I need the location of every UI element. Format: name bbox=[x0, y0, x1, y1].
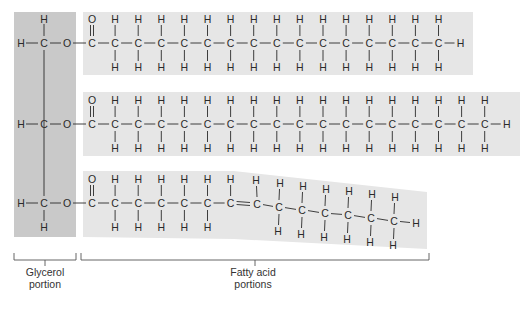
chain3-h-bottom-5: H bbox=[204, 221, 212, 233]
glycerol-label-line2: portion bbox=[10, 278, 80, 290]
chain2-h-top-7: H bbox=[250, 94, 258, 106]
chain3-tail-h-top-5: H bbox=[391, 191, 399, 203]
chain1-h-bottom-4: H bbox=[181, 61, 189, 73]
chain1-h-top-5: H bbox=[204, 13, 212, 25]
chain1-carbon-4: C bbox=[181, 37, 189, 49]
ester-oxygen-2: O bbox=[63, 197, 71, 209]
glycerol-bracket bbox=[14, 253, 76, 260]
chain1-carbon-9: C bbox=[296, 37, 304, 49]
glycerol-label-line1: Glycerol bbox=[10, 266, 80, 278]
chain3-alkene-carbon: C bbox=[253, 198, 261, 210]
chain1-h-bottom-5: H bbox=[204, 61, 212, 73]
chain1-h-top-9: H bbox=[296, 13, 304, 25]
chain2-h-top-17: H bbox=[481, 94, 489, 106]
chain1-carbon-15: C bbox=[435, 37, 443, 49]
chain3-h-bottom-1: H bbox=[111, 221, 119, 233]
chain1-carbon-1: C bbox=[111, 37, 119, 49]
bond bbox=[394, 203, 395, 214]
chain2-carbon-2: C bbox=[134, 118, 142, 130]
chain2-h-top-5: H bbox=[204, 94, 212, 106]
chain3-carbon-2: C bbox=[134, 197, 142, 209]
chain2-h-top-14: H bbox=[412, 94, 420, 106]
chain1-h-bottom-3: H bbox=[158, 61, 166, 73]
chain2-h-bottom-8: H bbox=[273, 142, 281, 154]
chain2-carbon-17: C bbox=[481, 118, 489, 130]
chain2-carbon-7: C bbox=[250, 118, 258, 130]
chain2-h-bottom-10: H bbox=[319, 142, 327, 154]
chain1-carbon-3: C bbox=[158, 37, 166, 49]
bond bbox=[325, 195, 326, 206]
chain1-terminal-h: H bbox=[457, 37, 465, 49]
bond bbox=[257, 186, 258, 197]
chain1-h-bottom-10: H bbox=[319, 61, 327, 73]
chain3-tail-carbon-4: C bbox=[367, 212, 375, 224]
chain1-h-bottom-2: H bbox=[134, 61, 142, 73]
chain3-tail-h-bottom-1: H bbox=[297, 228, 305, 240]
chain2-h-bottom-5: H bbox=[204, 142, 212, 154]
chain1-h-bottom-13: H bbox=[389, 61, 397, 73]
chain3-tail-carbon-3: C bbox=[344, 209, 352, 221]
chain3-h-top-3: H bbox=[158, 173, 166, 185]
chain3-carbon-5: C bbox=[204, 197, 212, 209]
chain1-carbon-5: C bbox=[204, 37, 212, 49]
bond bbox=[302, 192, 303, 203]
chain1-h-bottom-6: H bbox=[227, 61, 235, 73]
chain3-tail-h-top-3: H bbox=[345, 185, 353, 197]
chain2-h-top-12: H bbox=[365, 94, 373, 106]
bond bbox=[279, 189, 280, 200]
chain2-h-top-8: H bbox=[273, 94, 281, 106]
bond bbox=[371, 200, 372, 211]
chain3-tail-carbon-5: C bbox=[390, 215, 398, 227]
chain2-h-top-1: H bbox=[111, 94, 119, 106]
chain2-carbon-1: C bbox=[111, 118, 119, 130]
chain1-h-top-11: H bbox=[342, 13, 350, 25]
chain2-h-top-2: H bbox=[134, 94, 142, 106]
chain2-h-bottom-12: H bbox=[365, 142, 373, 154]
chain1-h-bottom-15: H bbox=[435, 61, 443, 73]
carbonyl-carbon-3: C bbox=[88, 197, 96, 209]
chain2-h-bottom-14: H bbox=[412, 142, 420, 154]
chain2-h-top-9: H bbox=[296, 94, 304, 106]
chain1-carbon-8: C bbox=[273, 37, 281, 49]
chain2-carbon-5: C bbox=[204, 118, 212, 130]
chain1-h-top-1: H bbox=[111, 13, 119, 25]
bond bbox=[348, 197, 349, 208]
chain1-h-top-15: H bbox=[435, 13, 443, 25]
chain3-carbon-6: C bbox=[227, 197, 235, 209]
carbonyl-oxygen-1: O bbox=[88, 13, 96, 25]
chain2-h-bottom-16: H bbox=[458, 142, 466, 154]
chain1-carbon-12: C bbox=[365, 37, 373, 49]
chain3-carbon-1: C bbox=[111, 197, 119, 209]
chain2-carbon-3: C bbox=[158, 118, 166, 130]
chain1-h-top-12: H bbox=[365, 13, 373, 25]
chain2-h-bottom-3: H bbox=[158, 142, 166, 154]
chain3-h-top-2: H bbox=[134, 173, 142, 185]
chain2-h-top-3: H bbox=[158, 94, 166, 106]
glycerol-bottom-h: H bbox=[40, 221, 48, 233]
chain3-h-bottom-3: H bbox=[158, 221, 166, 233]
chain2-h-top-11: H bbox=[342, 94, 350, 106]
chain2-carbon-13: C bbox=[389, 118, 397, 130]
chain2-carbon-11: C bbox=[342, 118, 350, 130]
chain1-h-bottom-11: H bbox=[342, 61, 350, 73]
chain1-carbon-10: C bbox=[319, 37, 327, 49]
chain2-h-bottom-17: H bbox=[481, 142, 489, 154]
glycerol-portion-label: Glycerol portion bbox=[10, 266, 80, 290]
chain3-tail-h-top-2: H bbox=[322, 183, 330, 195]
triglyceride-diagram: HHHCOHCOHCOCOCHHCHHCHHCHHCHHCHHCHHCHHCHH… bbox=[0, 0, 527, 309]
chain1-h-bottom-12: H bbox=[365, 61, 373, 73]
chain1-carbon-6: C bbox=[227, 37, 235, 49]
chain2-terminal-h: H bbox=[503, 118, 511, 130]
chain3-tail-h-bottom-0: H bbox=[274, 225, 282, 237]
chain3-carbon-4: C bbox=[181, 197, 189, 209]
bond bbox=[302, 217, 303, 228]
chain2-carbon-12: C bbox=[365, 118, 373, 130]
chain3-tail-h-bottom-4: H bbox=[366, 236, 374, 248]
carbonyl-oxygen-2: O bbox=[88, 94, 96, 106]
chain2-h-bottom-15: H bbox=[435, 142, 443, 154]
chain3-tail-h-top-1: H bbox=[299, 180, 307, 192]
ester-oxygen-0: O bbox=[63, 37, 71, 49]
carbonyl-oxygen-3: O bbox=[88, 173, 96, 185]
chain3-tail-carbon-0: C bbox=[275, 201, 283, 213]
chain1-h-top-7: H bbox=[250, 13, 258, 25]
